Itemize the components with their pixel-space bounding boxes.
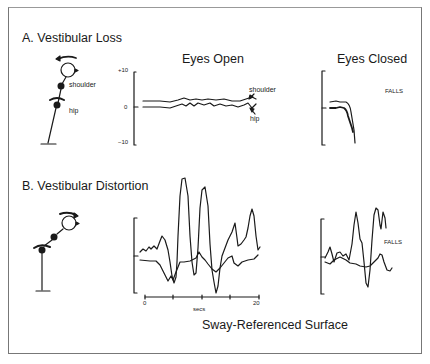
stick-figure-leaning-icon (34, 213, 79, 291)
diagram-graphics (0, 0, 430, 364)
stick-figure-upright-icon (41, 56, 78, 144)
